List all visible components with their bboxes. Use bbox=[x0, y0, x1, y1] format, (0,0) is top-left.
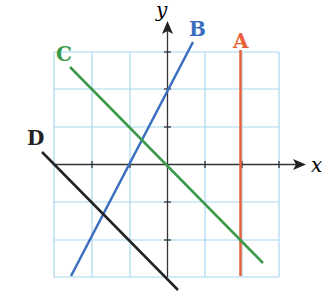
coordinate-plane: x y A B C D bbox=[0, 0, 334, 306]
line-d bbox=[42, 152, 178, 290]
label-a: A bbox=[232, 29, 249, 53]
y-axis-label: y bbox=[155, 0, 168, 22]
label-b: B bbox=[189, 17, 206, 41]
label-d: D bbox=[27, 126, 44, 150]
x-axis-label: x bbox=[311, 153, 322, 177]
label-c: C bbox=[56, 42, 72, 66]
line-b bbox=[71, 42, 193, 276]
